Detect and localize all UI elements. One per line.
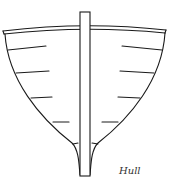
rib-left-2 (16, 71, 49, 73)
rib-left-3 (31, 97, 52, 98)
rib-right-2 (120, 71, 154, 73)
hull-drawing (0, 0, 172, 183)
keel-post (80, 12, 90, 176)
figure-caption: Hull (119, 165, 141, 176)
rib-right-1 (122, 46, 162, 50)
rib-left-5 (73, 143, 78, 144)
rib-left-1 (8, 46, 46, 50)
hull-left-side (5, 34, 80, 175)
hull-right-side (90, 33, 165, 175)
hull-diagram: Hull (0, 0, 172, 183)
rib-right-3 (118, 97, 140, 98)
